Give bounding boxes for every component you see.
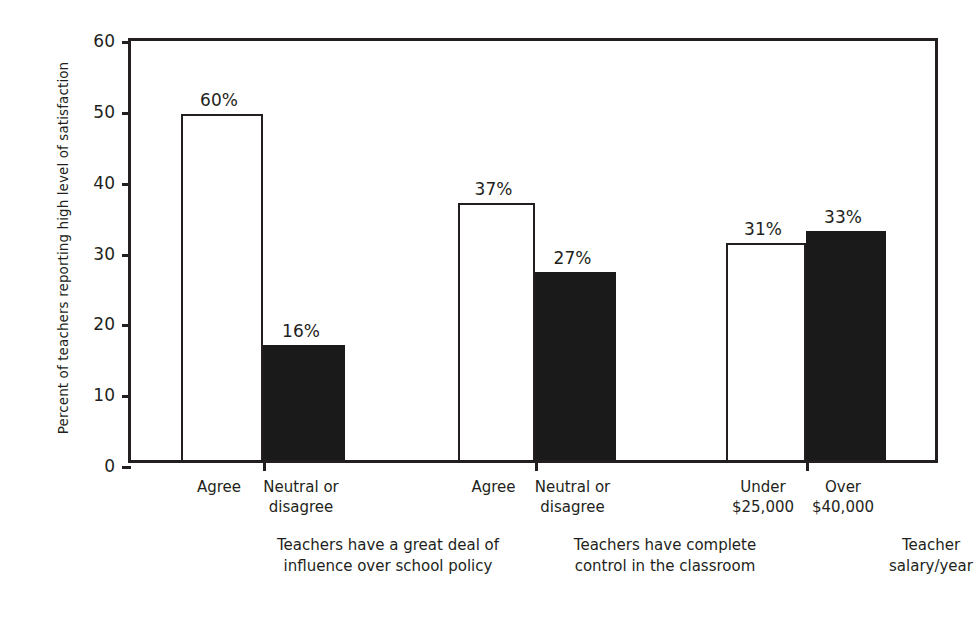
x-axis-category-label: Over $40,000 xyxy=(812,477,874,517)
x-axis-group-tick xyxy=(263,460,266,471)
bar xyxy=(806,231,886,461)
y-axis-tick-label: 20 xyxy=(93,314,115,334)
bar-value-label: 31% xyxy=(744,219,782,239)
bar-value-label: 27% xyxy=(554,248,592,268)
bar xyxy=(726,243,806,460)
bar-chart-figure: Percent of teachers reporting high level… xyxy=(0,0,976,620)
y-axis-title: Percent of teachers reporting high level… xyxy=(46,0,80,498)
x-axis-category-label: Neutral or disagree xyxy=(535,477,610,517)
y-axis-tick xyxy=(122,41,131,44)
y-axis-tick xyxy=(122,112,131,115)
x-axis-category-label: Neutral or disagree xyxy=(263,477,338,517)
y-axis-tick-label: 30 xyxy=(93,244,115,264)
y-axis-tick xyxy=(122,466,131,469)
x-axis-group-tick xyxy=(535,460,538,471)
y-axis-tick xyxy=(122,183,131,186)
y-axis-tick-label: 0 xyxy=(104,456,115,476)
x-axis-category-label: Agree xyxy=(471,477,515,497)
y-axis-tick-label: 10 xyxy=(93,385,115,405)
x-axis-category-label: Under $25,000 xyxy=(732,477,794,517)
bar xyxy=(458,203,535,460)
y-axis-tick xyxy=(122,254,131,257)
bar-value-label: 37% xyxy=(475,179,513,199)
y-axis-tick xyxy=(122,324,131,327)
y-axis-tick-label: 60 xyxy=(93,31,115,51)
bar-value-label: 16% xyxy=(282,321,320,341)
bar-value-label: 60% xyxy=(200,90,238,110)
x-axis-group-label: Teachers have complete control in the cl… xyxy=(574,535,756,577)
y-axis-tick xyxy=(122,395,131,398)
x-axis-group-label: Teacher salary/year xyxy=(889,535,973,577)
y-axis-tick-label: 50 xyxy=(93,102,115,122)
plot-area: 0102030405060 xyxy=(128,38,938,463)
x-axis-category-label: Agree xyxy=(197,477,241,497)
bar xyxy=(535,272,616,460)
x-axis-group-tick xyxy=(806,460,809,471)
bar-value-label: 33% xyxy=(824,207,862,227)
bar xyxy=(181,114,263,460)
bar xyxy=(263,345,345,460)
y-axis-tick-label: 40 xyxy=(93,173,115,193)
x-axis-group-label: Teachers have a great deal of influence … xyxy=(277,535,499,577)
